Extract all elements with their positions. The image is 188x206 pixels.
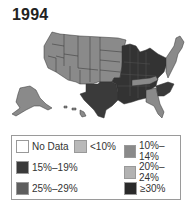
western-states-region [44, 32, 126, 84]
legend-item-25-29: 25%–29% [16, 182, 78, 195]
legend-item-10-14: 10%–14% [124, 140, 180, 162]
swatch-15-19 [16, 161, 29, 174]
legend-item-lt10: <10% [74, 140, 116, 153]
carolinas-region [156, 82, 174, 96]
legend-item-20-24: 20%–24% [124, 161, 180, 183]
legend-item-ge30: ≥30% [124, 182, 166, 195]
legend: No Data <10% 10%–14% 15%–19% 20%–24% 25%… [11, 135, 181, 200]
texas-region [80, 82, 118, 118]
legend-item-15-19: 15%–19% [16, 161, 78, 174]
map-title: 1994 [12, 6, 48, 24]
swatch-ge30 [124, 182, 137, 195]
legend-item-no-data: No Data [16, 140, 69, 153]
northeast-region [166, 36, 184, 78]
swatch-lt10 [74, 140, 87, 153]
hawaii [64, 106, 86, 117]
alaska [12, 86, 52, 116]
swatch-10-14 [124, 145, 136, 158]
swatch-25-29 [16, 182, 29, 195]
swatch-20-24 [124, 166, 136, 179]
swatch-no-data [16, 140, 29, 153]
us-choropleth-map [0, 26, 188, 126]
